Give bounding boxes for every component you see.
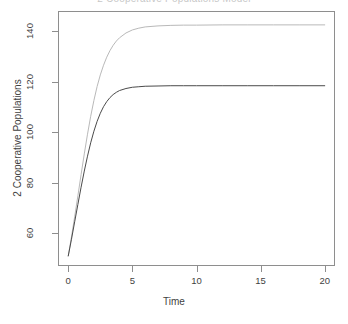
- x-tick-label: 0: [53, 275, 83, 286]
- x-tick-mark: [132, 266, 133, 272]
- y-axis-title: 2 Cooperative Populations: [11, 48, 25, 228]
- x-tick-mark: [68, 266, 69, 272]
- plot-area: [58, 11, 335, 266]
- y-tick-mark: [52, 132, 58, 133]
- x-axis-title: Time: [0, 296, 348, 307]
- x-tick-mark: [325, 266, 326, 272]
- x-tick-mark: [261, 266, 262, 272]
- x-tick-label: 5: [117, 275, 147, 286]
- x-tick-label: 20: [310, 275, 340, 286]
- x-tick-mark: [197, 266, 198, 272]
- y-axis-title-wrap: 2 Cooperative Populations: [11, 48, 25, 228]
- x-tick-label: 10: [182, 275, 212, 286]
- y-tick-mark: [52, 31, 58, 32]
- chart-title: 2 Cooperative Populations Model: [0, 0, 348, 4]
- y-tick-mark: [52, 183, 58, 184]
- y-tick-mark: [52, 233, 58, 234]
- series-line: [68, 25, 324, 256]
- y-tick-label: 140: [14, 24, 46, 38]
- y-tick-mark: [52, 82, 58, 83]
- series-line: [68, 86, 324, 256]
- chart-page: 2 Cooperative Populations Model 60801001…: [0, 0, 348, 324]
- x-tick-label: 15: [246, 275, 276, 286]
- series-group: [68, 25, 324, 256]
- y-tick-label: 60: [14, 226, 46, 240]
